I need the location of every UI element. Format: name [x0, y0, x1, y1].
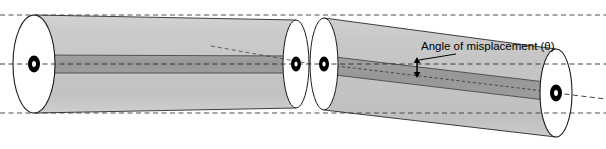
core-dot-splice-right [319, 57, 329, 72]
left-fiber-core-band [34, 55, 300, 73]
fiber-misalignment-diagram: Angle of misplacement (θ) [0, 0, 606, 149]
core-dot-left-endface [28, 56, 40, 73]
fiber-diagram-canvas: Angle of misplacement (θ) [0, 0, 606, 149]
left-fiber-core-group [34, 55, 300, 73]
core-dot-splice-left [291, 57, 301, 72]
fiber-segment-right [310, 18, 572, 137]
angle-of-misplacement-label: Angle of misplacement (θ) [421, 40, 555, 52]
core-dot-right-endface [550, 85, 562, 102]
